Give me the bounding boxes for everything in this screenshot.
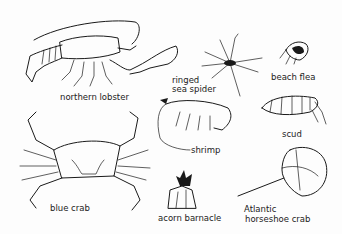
label-shrimp: shrimp [191,145,220,155]
scud-drawing [262,96,326,124]
arthropod-illustration: northern lobster ringed sea spider beach… [0,0,342,234]
label-beach-flea: beach flea [271,72,315,82]
northern-lobster-drawing [26,21,178,86]
label-scud: scud [282,129,302,139]
label-blue-crab: blue crab [50,203,90,213]
label-northern-lobster: northern lobster [60,92,129,102]
shrimp-drawing [158,98,231,150]
label-acorn-barnacle: acorn barnacle [158,213,221,223]
label-horseshoe-crab-line1: Atlantic [244,204,276,214]
drawings [0,0,342,234]
horseshoe-crab-drawing [238,147,327,196]
beach-flea-drawing [280,42,308,64]
label-horseshoe-crab-line2: horseshoe crab [245,214,310,224]
label-ringed-sea-spider-line2: sea spider [172,84,216,94]
blue-crab-drawing [20,112,150,210]
acorn-barnacle-drawing [168,170,196,208]
